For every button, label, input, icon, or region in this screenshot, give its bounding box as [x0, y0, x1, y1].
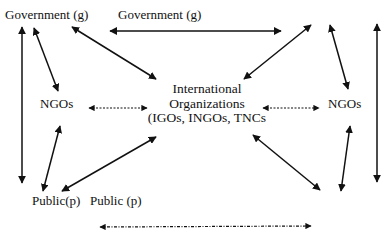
center-line-2: Organizations	[140, 97, 274, 112]
node-government-left: Government (g)	[5, 8, 88, 22]
edge-center-to-public-left	[62, 137, 156, 191]
edge-public-left-to-public-right	[100, 226, 311, 227]
edge-ngos-right-to-public-right	[341, 126, 350, 191]
edge-gov-right-to-ngos-right	[330, 25, 348, 89]
edge-gov-left-to-center	[72, 27, 156, 79]
node-public-mid: Public (p)	[90, 194, 142, 208]
node-international-organizations: International Organizations (IGOs, INGOs…	[140, 82, 274, 126]
node-government-top: Government (g)	[118, 8, 201, 22]
edge-ngos-left-to-public-left	[43, 126, 60, 191]
node-ngos-right: NGOs	[328, 97, 361, 111]
edge-center-to-public-right	[253, 135, 320, 190]
edge-gov-left-to-ngos-left	[34, 28, 58, 91]
node-ngos-left: NGOs	[40, 97, 73, 111]
diagram-canvas: Government (g) Government (g) NGOs NGOs …	[0, 0, 389, 239]
node-public-left: Public(p)	[32, 194, 80, 208]
center-line-1: International	[140, 82, 274, 97]
center-line-3: (IGOs, INGOs, TNCs	[140, 111, 274, 126]
edge-center-to-gov-right	[244, 25, 311, 79]
